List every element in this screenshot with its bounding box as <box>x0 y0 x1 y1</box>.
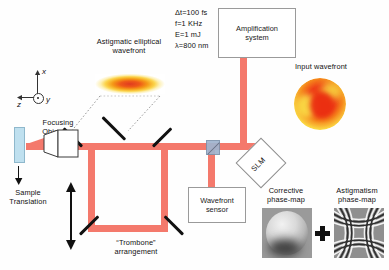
focusing-objective-label: Focusing Objective <box>27 118 89 136</box>
sample-slide <box>14 127 25 163</box>
sample-translation-label: Sample Translation <box>0 188 59 206</box>
corrective-phase-map-image <box>262 208 312 258</box>
amplification-system-box: Amplification system <box>218 8 296 58</box>
laser-repetition-rate: f=1 KHz <box>175 19 221 28</box>
plus-icon <box>315 226 330 241</box>
beam-trombone-bottom <box>88 225 168 232</box>
laser-pulse-duration: Δt=100 fs <box>175 8 221 17</box>
axis-y-label: y <box>46 95 50 104</box>
mirror-objective-turn <box>102 116 126 140</box>
axis-x-label: x <box>42 67 46 76</box>
astigmatism-fringe-pattern <box>334 208 384 258</box>
trombone-label: “Trombone” arrangement <box>98 238 174 256</box>
axis-origin-y-out-of-plane <box>33 93 44 104</box>
wavefront-sensor-box: Wavefront sensor <box>188 187 246 223</box>
astigmatic-wavefront-label: Astigmatic elliptical wavefront <box>73 37 185 55</box>
axis-z-label: z <box>17 100 21 109</box>
astigmatic-wavefront-image <box>95 74 165 94</box>
input-wavefront-label: Input wavefront <box>278 62 364 71</box>
input-wavefront-image <box>294 78 346 130</box>
beam-amplifier-output <box>240 56 247 143</box>
astigmatism-phase-map-label: Astigmatism phase-map <box>325 186 389 204</box>
beam-to-objective <box>26 143 66 150</box>
sample-translation-arrow-line <box>18 166 19 181</box>
corrective-phase-map-label: Corrective phase-map <box>252 186 320 204</box>
optical-setup-diagram: Amplification system Wavefront sensor SL… <box>0 0 389 270</box>
beamsplitter <box>206 140 220 155</box>
trombone-translation-arrow-line <box>70 190 72 240</box>
astigmatism-phase-map-image <box>334 208 384 258</box>
